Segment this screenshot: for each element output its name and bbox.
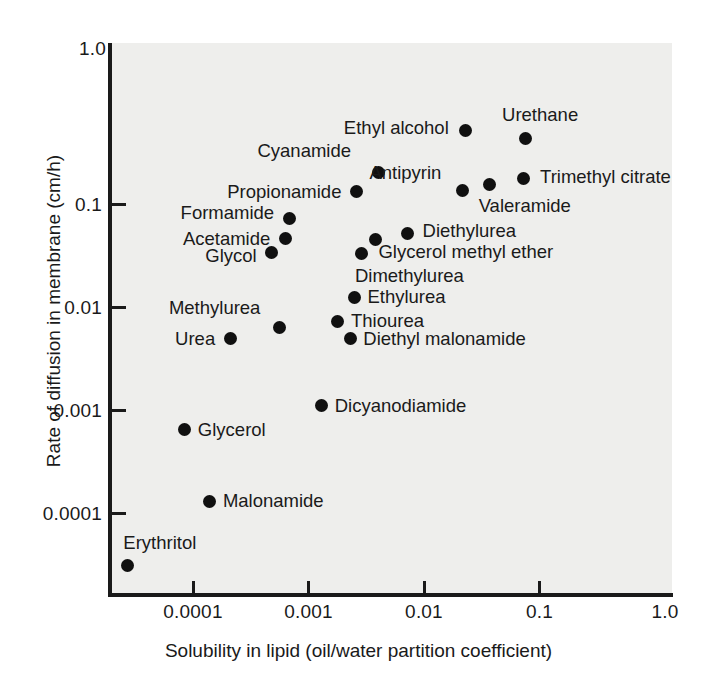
data-point-label: Diethylurea (423, 222, 517, 241)
x-tick-mark (423, 581, 426, 594)
data-point[interactable] (331, 315, 344, 328)
data-point-label: Dimethylurea (355, 266, 464, 285)
data-point-label: Diethyl malonamide (363, 330, 525, 349)
data-point-label: Urea (175, 330, 215, 349)
scatter-plot-figure: 1.00.10.010.0010.0001 0.00010.0010.010.1… (0, 0, 717, 683)
x-tick-label: 1.0 (651, 601, 678, 623)
x-axis-title: Solubility in lipid (oil/water partition… (0, 640, 717, 662)
data-point-label: Dicyanodiamide (335, 396, 467, 415)
y-tick-mark (112, 409, 126, 412)
data-point[interactable] (459, 124, 472, 137)
data-point-label: Trimethyl citrate (540, 168, 671, 187)
data-point[interactable] (401, 227, 414, 240)
data-point-label: Erythritol (123, 534, 196, 553)
y-tick-mark (112, 512, 126, 515)
data-point-label: Ethylurea (367, 288, 445, 307)
data-point[interactable] (456, 184, 469, 197)
data-point[interactable] (121, 559, 134, 572)
data-point[interactable] (348, 291, 361, 304)
y-axis-title: Rate of diffusion in membrane (cm/h) (43, 71, 65, 551)
data-point-label: Propionamide (227, 183, 341, 202)
data-point-label: Glycol (205, 247, 256, 266)
x-tick-label: 0.0001 (163, 601, 222, 623)
data-point[interactable] (279, 232, 292, 245)
data-point[interactable] (517, 172, 530, 185)
data-point[interactable] (273, 321, 286, 334)
x-tick-mark (538, 581, 541, 594)
y-tick-label: 1.0 (4, 38, 106, 60)
x-tick-mark (192, 581, 195, 594)
data-point[interactable] (265, 246, 278, 259)
data-point-label: Urethane (502, 106, 578, 125)
y-tick-mark (112, 203, 126, 206)
x-tick-mark (307, 581, 310, 594)
data-point-label: Ethyl alcohol (344, 119, 449, 138)
data-point-label: Malonamide (223, 492, 324, 511)
x-tick-label: 0.01 (405, 601, 443, 623)
data-point[interactable] (519, 132, 532, 145)
data-point-label: Cyanamide (257, 142, 351, 161)
x-tick-label: 0.1 (526, 601, 553, 623)
data-point-label: Glycerol (198, 421, 266, 440)
data-point[interactable] (283, 212, 296, 225)
data-point-label: Antipyrin (369, 163, 441, 182)
data-point-label: Methylurea (169, 298, 261, 317)
data-point-label: Valeramide (479, 197, 571, 216)
y-tick-mark (112, 306, 126, 309)
data-point[interactable] (483, 178, 496, 191)
x-tick-label: 0.001 (284, 601, 333, 623)
data-point-label: Formamide (181, 203, 275, 222)
data-point-label: Glycerol methyl ether (378, 242, 553, 261)
